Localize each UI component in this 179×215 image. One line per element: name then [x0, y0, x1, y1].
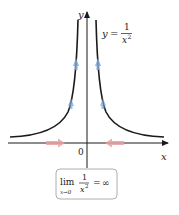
curve-up-arrow-icon [73, 58, 79, 70]
svg-text:∞: ∞ [102, 178, 110, 188]
svg-text:x→0: x→0 [60, 189, 72, 195]
svg-text:1: 1 [124, 22, 130, 32]
curve-up-arrow-icon [95, 58, 101, 70]
svg-text:lim: lim [60, 177, 75, 187]
function-label: y = 1 x 2 [101, 22, 132, 45]
svg-text:y: y [101, 28, 108, 39]
x-axis-label: x [161, 151, 167, 162]
x-approach-left-arrow-icon [105, 139, 124, 148]
origin-label: 0 [78, 147, 84, 157]
graph-canvas: y x 0 y = 1 x 2 lim x→0 1 x 2 = ∞ [0, 0, 179, 215]
svg-text:=: = [110, 28, 118, 39]
y-axis-label: y [77, 9, 84, 20]
svg-text:=: = [93, 178, 101, 188]
svg-text:x: x [122, 35, 127, 45]
x-approach-right-arrow-icon [46, 139, 65, 148]
svg-text:2: 2 [85, 183, 89, 189]
svg-text:1: 1 [82, 173, 87, 182]
curve-left-branch [10, 20, 78, 137]
svg-text:2: 2 [128, 33, 132, 40]
